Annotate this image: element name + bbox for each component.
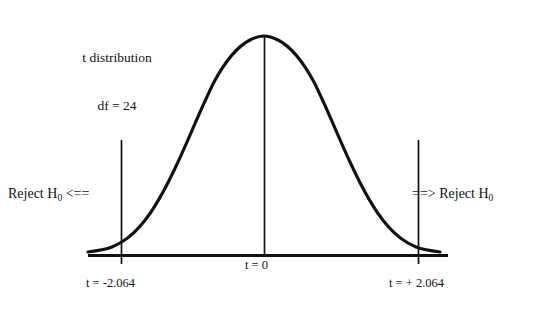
t-distribution-figure: t distribution df = 24 Reject H0 <== ==>… xyxy=(0,0,539,310)
axis-label-right-critical: t = + 2.064 xyxy=(389,276,444,291)
left-arrow-icon: <== xyxy=(62,186,89,201)
chart-title-line1: t distribution xyxy=(55,50,179,66)
reject-right-text: Reject H xyxy=(439,186,488,201)
chart-title: t distribution df = 24 xyxy=(55,18,179,145)
reject-region-label-left: Reject H0 <== xyxy=(8,186,89,203)
reject-left-text: Reject H xyxy=(8,186,57,201)
axis-label-center: t = 0 xyxy=(245,258,268,273)
chart-title-degrees-of-freedom: df = 24 xyxy=(55,98,179,114)
right-arrow-icon: ==> xyxy=(412,186,439,201)
axis-label-left-critical: t = -2.064 xyxy=(86,276,135,291)
reject-region-label-right: ==> Reject H0 xyxy=(412,186,493,203)
reject-right-subscript: 0 xyxy=(489,193,494,203)
reject-left-subscript: 0 xyxy=(57,193,62,203)
